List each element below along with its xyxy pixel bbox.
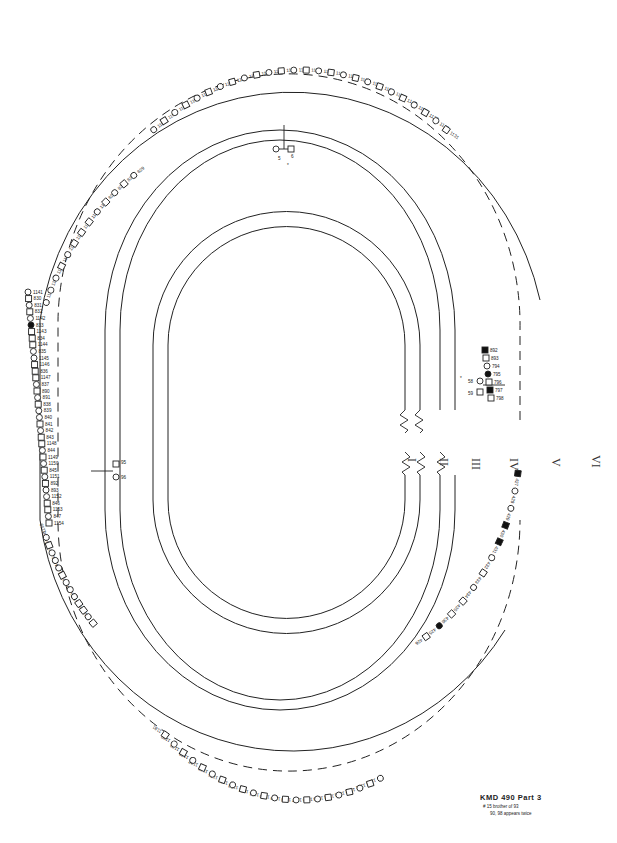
svg-text:1142: 1142 bbox=[35, 316, 45, 321]
svg-text:832: 832 bbox=[35, 309, 43, 314]
svg-text:435: 435 bbox=[452, 603, 461, 612]
male-icon: 846 bbox=[44, 500, 60, 506]
svg-text:1145: 1145 bbox=[39, 356, 49, 361]
generation-label: VI bbox=[589, 455, 603, 468]
svg-text:95: 95 bbox=[121, 460, 127, 465]
svg-text:59: 59 bbox=[468, 391, 474, 396]
svg-text:829: 829 bbox=[136, 165, 145, 174]
generation-label: I bbox=[405, 458, 419, 462]
generation-label: III bbox=[469, 458, 483, 470]
svg-text:1131: 1131 bbox=[449, 130, 460, 140]
generation-label: IV bbox=[507, 458, 521, 471]
svg-text:833: 833 bbox=[36, 323, 44, 328]
outer-bottom-individuals: 1160116111621163116411651166116711681169… bbox=[151, 724, 384, 804]
male-icon: 1181 bbox=[151, 724, 169, 739]
male-icon: 892 bbox=[482, 347, 498, 353]
generation-rings bbox=[40, 74, 540, 771]
lower-left-individuals: 1155115611578488498508518948958528531158… bbox=[38, 522, 97, 627]
svg-text:847: 847 bbox=[53, 514, 61, 519]
outer-top-individuals: 1106110711081109111011111112111311141115… bbox=[150, 67, 461, 141]
female-icon: 837 bbox=[33, 381, 49, 387]
svg-text:836: 836 bbox=[40, 369, 48, 374]
female-icon: 1141 bbox=[25, 289, 43, 295]
svg-text:844: 844 bbox=[47, 448, 55, 453]
svg-text:797: 797 bbox=[495, 388, 503, 393]
svg-text:1153: 1153 bbox=[53, 507, 63, 512]
female-icon: 795 bbox=[485, 371, 501, 377]
svg-text:830: 830 bbox=[34, 296, 42, 301]
female-icon: 833 bbox=[28, 322, 44, 328]
svg-text:1149: 1149 bbox=[48, 455, 58, 460]
female-icon: 1152 bbox=[44, 494, 62, 500]
female-icon: 847 bbox=[45, 513, 61, 519]
svg-text:426: 426 bbox=[414, 637, 424, 646]
male-icon: 1144 bbox=[30, 342, 48, 348]
svg-text:1143: 1143 bbox=[37, 329, 47, 334]
svg-text:891: 891 bbox=[43, 395, 51, 400]
svg-text:430: 430 bbox=[499, 529, 507, 538]
left-couple: 95 96 bbox=[91, 460, 127, 480]
male-icon: 1154 bbox=[46, 520, 64, 526]
svg-text:837: 837 bbox=[41, 382, 49, 387]
generation-labels: I II III IV V VI bbox=[405, 455, 603, 471]
svg-text:798: 798 bbox=[496, 396, 504, 401]
female-icon: 794 bbox=[484, 363, 500, 369]
lower-right-individuals: 427428429430431432433434435436425426 bbox=[414, 470, 522, 647]
male-icon: 836 bbox=[32, 368, 48, 374]
female-icon: 831 bbox=[26, 302, 42, 308]
male-icon: 893 bbox=[483, 355, 499, 361]
male-icon: 1143 bbox=[29, 329, 47, 335]
svg-text:432: 432 bbox=[483, 561, 491, 571]
male-icon: 796 bbox=[486, 379, 502, 385]
svg-text:1146: 1146 bbox=[40, 362, 50, 367]
svg-text:429: 429 bbox=[505, 512, 512, 521]
svg-text:841: 841 bbox=[45, 422, 53, 427]
male-icon: 1148 bbox=[39, 441, 57, 447]
svg-text:1144: 1144 bbox=[38, 342, 48, 347]
female-icon: 893 bbox=[43, 487, 59, 493]
male-icon: 426 bbox=[414, 632, 431, 646]
male-icon: 1153 bbox=[45, 507, 63, 513]
female-icon: 1150 bbox=[41, 461, 59, 467]
generation-label: II bbox=[437, 458, 451, 466]
male-icon: 843 bbox=[38, 434, 54, 440]
male-icon: 830 bbox=[26, 296, 42, 302]
svg-text:434: 434 bbox=[464, 590, 473, 599]
svg-text:*: * bbox=[287, 163, 289, 168]
legend-note: 90, 98 appears twice bbox=[490, 811, 600, 816]
svg-text:892: 892 bbox=[490, 348, 498, 353]
svg-text:1154: 1154 bbox=[54, 521, 64, 526]
male-icon: 890 bbox=[34, 388, 50, 394]
svg-text:96: 96 bbox=[121, 475, 127, 480]
male-icon: 1131 bbox=[442, 126, 460, 141]
male-icon: 1149 bbox=[40, 454, 58, 460]
female-icon: 425 bbox=[427, 622, 443, 637]
legend: KMD 490 Part 3 # 15 brother of 93 90, 98… bbox=[480, 793, 600, 816]
male-icon: 838 bbox=[35, 401, 51, 407]
female-icon: 1151 bbox=[42, 474, 60, 480]
female-icon: 835 bbox=[30, 348, 46, 354]
female-icon: 891 bbox=[35, 395, 51, 401]
male-icon: 433 bbox=[473, 569, 487, 586]
male-icon: 798 bbox=[488, 395, 504, 401]
svg-text:842: 842 bbox=[46, 428, 54, 433]
male-icon: 797 bbox=[487, 387, 503, 393]
svg-text:1147: 1147 bbox=[41, 375, 51, 380]
pedigree-diagram: I II III IV V VI 5 6 * 95 96 58 59 * 114… bbox=[0, 0, 617, 843]
female-icon: 840 bbox=[36, 414, 52, 420]
male-icon: 845 bbox=[41, 467, 57, 473]
legend-title: KMD 490 Part 3 bbox=[480, 793, 600, 802]
svg-text:839: 839 bbox=[44, 408, 52, 413]
male-icon: 430 bbox=[498, 521, 509, 538]
legend-note: # 15 brother of 93 bbox=[483, 804, 600, 809]
male-icon: 1147 bbox=[33, 375, 51, 381]
right-side-individuals: 892893794795796797798 bbox=[482, 347, 504, 401]
male-icon: 436 bbox=[440, 610, 456, 625]
svg-text:5: 5 bbox=[278, 156, 281, 161]
svg-text:840: 840 bbox=[44, 415, 52, 420]
svg-text:794: 794 bbox=[492, 364, 500, 369]
female-icon: 844 bbox=[39, 447, 55, 453]
top-couple: 5 6 * bbox=[273, 125, 294, 168]
male-icon: 1146 bbox=[32, 362, 50, 368]
svg-text:893: 893 bbox=[51, 488, 59, 493]
